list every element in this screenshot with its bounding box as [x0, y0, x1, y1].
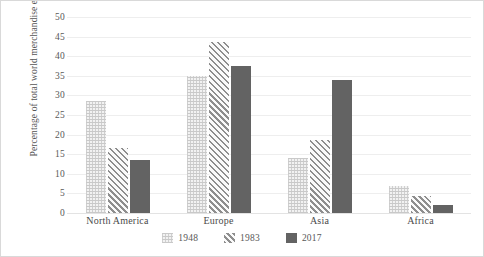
bar-2017: [130, 160, 150, 213]
bar-1948: [187, 76, 207, 213]
bar-1948: [86, 101, 106, 213]
bar-1948: [288, 158, 308, 213]
x-axis-label: Europe: [168, 215, 269, 231]
plot-area: [67, 17, 471, 213]
legend-swatch-icon: [224, 233, 235, 243]
legend-swatch-icon: [162, 233, 173, 243]
y-tick-label: 20: [39, 130, 65, 140]
legend-item-2017: 2017: [286, 233, 322, 243]
y-tick-label: 10: [39, 169, 65, 179]
x-axis-label: North America: [67, 215, 168, 231]
y-tick-label: 15: [39, 149, 65, 159]
bar-group: [67, 17, 168, 213]
legend-label: 1948: [178, 233, 198, 243]
y-tick-label: 0: [39, 208, 65, 218]
bar-groups: [67, 17, 471, 213]
x-axis-category-labels: North AmericaEuropeAsiaAfrica: [67, 215, 471, 231]
bar-group: [168, 17, 269, 213]
bar-group: [269, 17, 370, 213]
bar-2017: [231, 66, 251, 213]
bar-1983: [411, 196, 431, 213]
bar-1983: [209, 42, 229, 213]
legend-swatch-icon: [286, 233, 297, 243]
x-axis-label: Africa: [370, 215, 471, 231]
y-tick-label: 35: [39, 71, 65, 81]
y-tick-label: 25: [39, 110, 65, 120]
y-tick-label: 50: [39, 12, 65, 22]
bar-1948: [389, 186, 409, 213]
legend-item-1948: 1948: [162, 233, 198, 243]
legend-label: 2017: [302, 233, 322, 243]
y-axis-tick-labels: 50454035302520151050: [39, 17, 65, 213]
x-axis-label: Asia: [269, 215, 370, 231]
y-tick-label: 5: [39, 188, 65, 198]
axis-baseline: [67, 213, 471, 214]
bar-2017: [433, 205, 453, 213]
legend-label: 1983: [240, 233, 260, 243]
y-tick-label: 40: [39, 51, 65, 61]
bar-group: [370, 17, 471, 213]
y-tick-label: 45: [39, 32, 65, 42]
bar-1983: [310, 140, 330, 213]
bar-1983: [108, 148, 128, 213]
bar-2017: [332, 80, 352, 213]
legend-item-1983: 1983: [224, 233, 260, 243]
bar-chart-figure: Percentage of total world merchandise ex…: [0, 0, 484, 257]
y-tick-label: 30: [39, 90, 65, 100]
chart-legend: 194819832017: [1, 233, 483, 243]
